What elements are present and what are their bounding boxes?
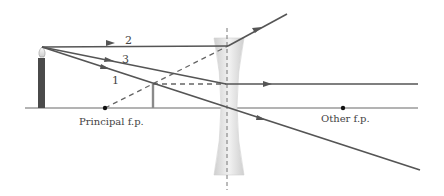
other-fp-label: Other f.p.: [321, 113, 370, 124]
ray3-label: 3: [122, 53, 129, 66]
ray1-label: 1: [112, 74, 119, 87]
ray3-out-arrow-icon: [263, 81, 272, 87]
other-focal-point: [341, 106, 345, 110]
ray1-out-arrow-icon: [256, 115, 266, 120]
candle-object: [38, 47, 45, 108]
ray2-label: 2: [125, 34, 132, 47]
principal-fp-label: Principal f.p.: [79, 116, 144, 127]
ray-diagram: 2 3 1 Principal f.p. Other f.p.: [0, 0, 444, 196]
diverging-lens: [214, 38, 244, 175]
principal-focal-point: [103, 106, 107, 110]
ray-2: [42, 14, 287, 47]
ray1-arrow-icon: [100, 64, 110, 69]
ray2-arrow-icon: [106, 40, 115, 46]
